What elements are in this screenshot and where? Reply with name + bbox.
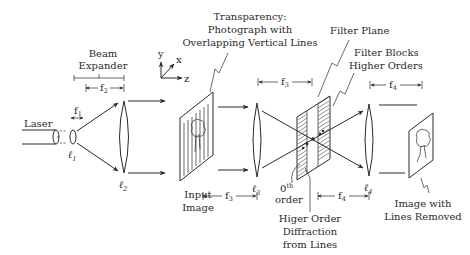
diverging-rays (77, 103, 118, 171)
focal-length-f4-bottom: f4 (318, 190, 369, 203)
svg-text:Beam: Beam (89, 48, 118, 59)
focal-length-f2: f2 (86, 82, 124, 95)
svg-text:from Lines: from Lines (283, 239, 338, 250)
output-image (409, 113, 433, 193)
svg-text:Input: Input (184, 189, 211, 200)
focal-length-f1: f1 (71, 105, 83, 118)
filter-plane (297, 96, 330, 180)
lens-l1: ℓ1 (68, 130, 76, 163)
focal-length-f3-top: f3 (258, 76, 312, 89)
svg-text:0th: 0th (280, 182, 293, 194)
svg-text:Filter Plane: Filter Plane (330, 25, 390, 36)
svg-text:z: z (184, 73, 189, 84)
input-image-label: Input Image (182, 189, 214, 213)
svg-text:Diffraction: Diffraction (283, 226, 338, 237)
svg-text:Transparency:: Transparency: (213, 11, 286, 22)
svg-text:ℓ2: ℓ2 (119, 179, 127, 193)
output-image-label: Image with Lines Removed (384, 198, 462, 222)
svg-text:Filter Blocks: Filter Blocks (354, 47, 419, 58)
higher-order-label: Higer Order Diffraction from Lines (279, 168, 341, 250)
beam-expander-bracket: Beam Expander (74, 48, 128, 81)
focal-length-f4-top: f4 (370, 79, 422, 92)
svg-text:Higher Orders: Higher Orders (349, 60, 423, 71)
collimated-rays-2 (218, 107, 248, 170)
svg-text:Photograph with: Photograph with (208, 24, 293, 35)
transparency-label: Transparency: Photograph with Overlappin… (182, 11, 317, 92)
lens-l3: ℓ3 (252, 103, 261, 197)
lens-l2: ℓ2 (119, 101, 129, 193)
svg-text:x: x (176, 54, 182, 65)
svg-text:Image with: Image with (394, 198, 452, 209)
svg-text:f4: f4 (338, 190, 346, 203)
input-image-transparency (180, 92, 213, 181)
collimated-rays-1 (128, 101, 165, 173)
svg-text:f3: f3 (225, 190, 233, 203)
svg-text:order: order (275, 194, 303, 205)
svg-text:f4: f4 (389, 79, 397, 92)
svg-text:ℓ4: ℓ4 (364, 182, 372, 196)
svg-text:Expander: Expander (79, 60, 128, 71)
svg-text:f2: f2 (100, 82, 108, 95)
svg-text:Overlapping Vertical Lines: Overlapping Vertical Lines (182, 37, 317, 48)
axis-indicator: y x z (157, 48, 189, 84)
filter-blocks-label: Filter Blocks Higher Orders (333, 47, 423, 106)
svg-text:Higer Order: Higer Order (279, 213, 341, 224)
svg-text:y: y (157, 48, 164, 59)
svg-text:Image: Image (182, 202, 214, 213)
laser: Laser (22, 118, 66, 144)
spatial-filtering-diagram: Laser ℓ1 f1 Beam Expander f2 ℓ2 (0, 0, 470, 255)
focusing-rays (262, 111, 363, 168)
svg-text:f1: f1 (74, 105, 82, 118)
output-rays (379, 105, 417, 173)
zeroth-order-label: 0th order (275, 164, 303, 205)
svg-text:Lines Removed: Lines Removed (384, 211, 462, 222)
lens-l1-label: ℓ1 (68, 149, 76, 163)
lens-l4: ℓ4 (364, 104, 373, 196)
laser-label: Laser (24, 118, 53, 129)
svg-text:ℓ3: ℓ3 (252, 183, 260, 197)
svg-text:f3: f3 (281, 76, 289, 89)
